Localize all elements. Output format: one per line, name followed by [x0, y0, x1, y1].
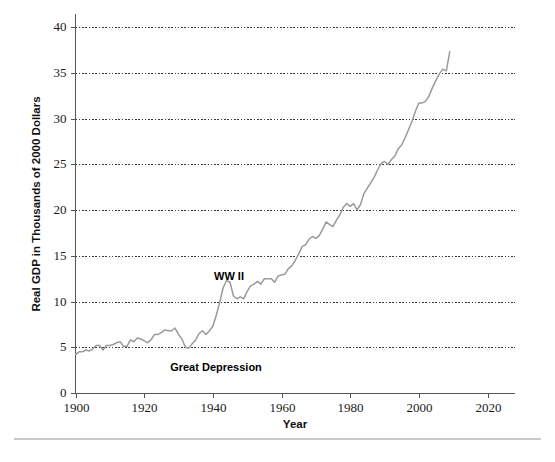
y-tick-label-15: 15 — [54, 248, 67, 263]
y-tick-group: 0510152025303540 — [54, 19, 76, 400]
gdp-chart-figure: 0510152025303540 19001920194019601980200… — [0, 0, 555, 462]
x-tick-label-1900: 1900 — [64, 400, 90, 415]
x-tick-label-2020: 2020 — [476, 400, 502, 415]
x-tick-label-1940: 1940 — [201, 400, 227, 415]
footer-divider — [14, 438, 541, 440]
y-tick-label-10: 10 — [54, 294, 67, 309]
x-axis-title: Year — [283, 418, 308, 430]
y-tick-label-5: 5 — [60, 339, 67, 354]
annotation-ww2: WW II — [214, 270, 244, 282]
x-tick-label-1920: 1920 — [132, 400, 158, 415]
y-tick-label-0: 0 — [60, 385, 67, 400]
y-axis-title: Real GDP in Thousands of 2000 Dollars — [30, 96, 42, 311]
x-tick-label-1960: 1960 — [270, 400, 296, 415]
y-tick-label-25: 25 — [54, 156, 67, 171]
x-tick-label-1980: 1980 — [338, 400, 364, 415]
y-tick-label-35: 35 — [54, 65, 67, 80]
gdp-data-line — [76, 52, 450, 355]
y-tick-label-30: 30 — [54, 111, 67, 126]
x-tick-group: 1900192019401960198020002020 — [64, 393, 502, 415]
y-tick-label-40: 40 — [54, 19, 67, 34]
y-tick-label-20: 20 — [54, 202, 67, 217]
gridline-group — [76, 28, 516, 348]
chart-canvas: 0510152025303540 19001920194019601980200… — [0, 0, 555, 440]
x-tick-label-2000: 2000 — [407, 400, 433, 415]
annotation-great-depression: Great Depression — [170, 361, 262, 373]
